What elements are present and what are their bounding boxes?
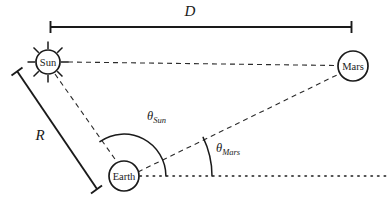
mars-icon: Mars xyxy=(338,51,368,81)
parallax-diagram: D R θS xyxy=(0,0,388,204)
earth-icon: Earth xyxy=(109,161,139,191)
theta-mars-arc xyxy=(203,137,212,176)
earth-label: Earth xyxy=(113,171,136,182)
line-sun-to-mars xyxy=(68,62,337,66)
line-earth-to-mars xyxy=(138,74,339,172)
sun-ray-se xyxy=(57,71,62,76)
sun-ray-nw xyxy=(34,48,39,53)
distance-r-dimension: R xyxy=(12,68,103,194)
angle-labels: θSun θMars xyxy=(147,109,241,157)
distance-r-rule xyxy=(17,71,97,189)
mars-label: Mars xyxy=(342,61,364,72)
distance-r-label: R xyxy=(34,127,44,143)
sun-icon: Sun xyxy=(28,42,69,83)
sight-lines xyxy=(55,62,339,172)
sun-label: Sun xyxy=(40,57,57,68)
sun-ray-ne xyxy=(57,48,62,53)
theta-mars-label: θMars xyxy=(216,141,241,157)
line-sun-to-earth xyxy=(55,74,117,162)
theta-sun-label: θSun xyxy=(147,109,166,125)
theta-sun-subscript: Sun xyxy=(153,115,166,125)
theta-mars-subscript: Mars xyxy=(221,147,241,157)
sun-ray-sw xyxy=(34,71,39,76)
diagram-canvas: D R θS xyxy=(0,0,388,204)
distance-d-dimension: D xyxy=(50,3,352,33)
distance-r-cap-top xyxy=(12,68,23,76)
distance-d-label: D xyxy=(184,3,196,19)
